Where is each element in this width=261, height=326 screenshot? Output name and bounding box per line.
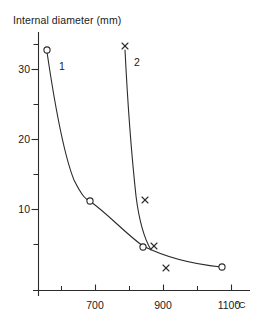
x-tick-label-700: 700 (73, 299, 117, 311)
y-tick-label-30: 30 (6, 63, 30, 75)
curve-1-markers (44, 47, 225, 270)
curve-1-label: 1 (59, 60, 65, 72)
x-tick-label-900: 900 (141, 299, 185, 311)
chart-figure: Internal diameter (mm) (0, 0, 261, 326)
y-tick-label-10: 10 (6, 203, 30, 215)
y-axis-ticks (32, 45, 39, 245)
x-axis-ticks (62, 285, 232, 291)
plot-area (0, 0, 261, 326)
x-axis-unit-label: °C (235, 299, 246, 310)
curve-1-path (47, 52, 221, 267)
y-tick-label-20: 20 (6, 133, 30, 145)
curve-2-label: 2 (134, 56, 140, 68)
curve-2-path (125, 50, 151, 250)
